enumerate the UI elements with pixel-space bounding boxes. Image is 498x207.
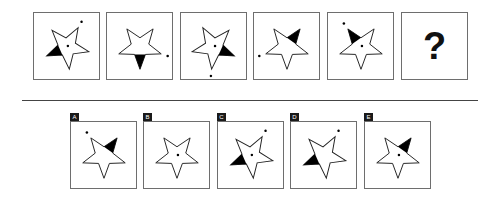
star-outline (83, 138, 125, 178)
question-mark: ? (402, 13, 467, 79)
star-outline (191, 27, 237, 72)
option-b[interactable] (143, 121, 210, 189)
star-outline (156, 138, 198, 178)
star-outline (377, 138, 419, 178)
star-icon (328, 13, 393, 79)
star-icon (254, 13, 319, 79)
outer-dot (264, 129, 267, 132)
sequence-panel-1 (33, 12, 100, 80)
option-a[interactable] (70, 121, 137, 189)
center-dot (361, 45, 364, 48)
outer-dot (86, 131, 89, 134)
outer-dot (343, 22, 346, 25)
star-icon (107, 13, 172, 79)
question-panel: ? (401, 12, 468, 80)
star-outline (228, 136, 274, 181)
sequence-panel-5 (327, 12, 394, 80)
sequence-panel-3 (180, 12, 247, 80)
star-icon (144, 122, 209, 188)
center-dot (398, 154, 401, 157)
option-d[interactable] (290, 121, 357, 189)
star-icon (181, 13, 246, 79)
sequence-panel-4 (253, 12, 320, 80)
sequence-panel-2 (106, 12, 173, 80)
star-outline (340, 29, 382, 69)
option-e[interactable] (364, 121, 431, 189)
filled-tip (135, 54, 146, 69)
option-c[interactable] (217, 121, 284, 189)
star-icon (34, 13, 99, 79)
center-dot (177, 154, 180, 157)
outer-dot (166, 55, 169, 58)
star-outline (44, 27, 90, 72)
divider (22, 100, 478, 101)
outer-dot (337, 129, 340, 132)
outer-dot (258, 55, 261, 58)
star-outline (301, 136, 347, 181)
outer-dot (210, 75, 213, 78)
star-icon (71, 122, 136, 188)
star-icon (365, 122, 430, 188)
star-icon (291, 122, 356, 188)
outer-dot (80, 20, 83, 23)
star-outline (266, 29, 308, 69)
star-icon (218, 122, 283, 188)
